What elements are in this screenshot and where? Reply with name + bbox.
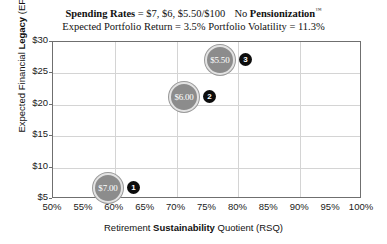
trademark-icon: ™ — [315, 6, 321, 13]
gridline-vertical — [115, 42, 116, 197]
gridline-vertical — [177, 42, 178, 197]
title-no-prefix: No — [234, 8, 249, 19]
data-bubble[interactable]: $5.50 — [205, 45, 235, 75]
title-spending-rates-label: Spending Rates — [65, 8, 135, 19]
chart-container: Spending Rates = $7, $6, $5.50/$100No Pe… — [0, 0, 387, 244]
y-axis-tick-label: $20 — [0, 97, 53, 108]
x-axis-label: Retirement Sustainability Quotient (RSQ) — [0, 222, 387, 233]
chart-title-line-2: Expected Portfolio Return = 3.5% Portfol… — [0, 20, 387, 33]
x-axis-label-pre: Retirement — [104, 222, 153, 233]
data-point-badge[interactable]: 2 — [203, 90, 216, 103]
x-axis-tick-label: 85% — [251, 201, 285, 212]
gridline-horizontal — [53, 105, 360, 106]
x-axis-tick-label: 95% — [313, 201, 347, 212]
plot-area: $7.001$6.002$5.503 — [52, 41, 361, 198]
y-axis-tick-label: $25 — [0, 65, 53, 76]
x-axis-tick-label: 75% — [190, 201, 224, 212]
x-axis-label-post: Quotient (RSQ) — [215, 222, 283, 233]
y-axis-tick-mark — [49, 198, 52, 199]
x-axis-tick-label: 65% — [128, 201, 162, 212]
y-axis-tick-label: $10 — [0, 160, 53, 171]
x-axis-tick-label: 55% — [66, 201, 100, 212]
y-axis-label-post: (EFL) — [16, 0, 27, 17]
y-axis-tick-label: $15 — [0, 128, 53, 139]
x-axis-label-bold: Sustainability — [153, 222, 215, 233]
gridline-horizontal — [53, 136, 360, 137]
chart-title-block: Spending Rates = $7, $6, $5.50/$100No Pe… — [0, 3, 387, 33]
data-point-badge[interactable]: 1 — [127, 181, 140, 194]
x-axis-tick-label: 70% — [159, 201, 193, 212]
gridline-horizontal — [53, 73, 360, 74]
y-axis-label-pre: Expected Financial — [16, 50, 27, 133]
title-spending-rates-value: = $7, $6, $5.50/$100 — [135, 8, 225, 19]
gridline-horizontal — [53, 168, 360, 169]
x-axis-tick-label: 90% — [282, 201, 316, 212]
data-bubble[interactable]: $6.00 — [169, 82, 199, 112]
gridline-vertical — [238, 42, 239, 197]
y-axis-tick-label: $30 — [0, 34, 53, 45]
x-axis-tick-label: 100% — [344, 201, 378, 212]
x-axis-tick-label: 50% — [35, 201, 69, 212]
data-point-badge[interactable]: 3 — [239, 53, 252, 66]
gridline-vertical — [300, 42, 301, 197]
title-pensionization-label: Pensionization — [250, 8, 315, 19]
chart-title-line-1: Spending Rates = $7, $6, $5.50/$100No Pe… — [0, 3, 387, 20]
x-axis-tick-label: 80% — [220, 201, 254, 212]
x-axis-tick-label: 60% — [97, 201, 131, 212]
data-bubble[interactable]: $7.00 — [93, 173, 123, 203]
